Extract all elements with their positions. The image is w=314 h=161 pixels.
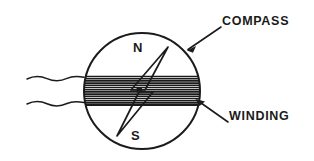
winding-callout-label: WINDING: [229, 110, 289, 123]
needle-north-pole-label: N: [133, 41, 142, 54]
needle-pivot-dot: [137, 88, 143, 93]
compass-leader-line: [188, 27, 221, 50]
lead-wire-upper: [27, 76, 84, 81]
callout-leaders-group: [187, 27, 228, 122]
lead-wires-group: [27, 76, 84, 106]
compass-winding-figure: COMPASS WINDING N S: [0, 0, 314, 161]
lead-wire-lower: [27, 101, 84, 106]
needle-south-pole-label: S: [131, 129, 140, 142]
compass-callout-label: COMPASS: [222, 15, 289, 28]
